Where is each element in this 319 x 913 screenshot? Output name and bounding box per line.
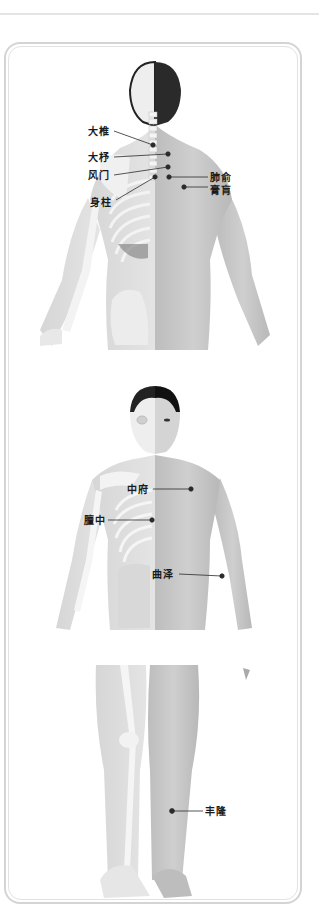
anatomy-illustration bbox=[0, 0, 319, 913]
acupoint-label-feishu: 肺俞 bbox=[210, 172, 231, 183]
acupoint-dot bbox=[220, 574, 224, 578]
acupoint-label-danzhong: 膻中 bbox=[84, 515, 105, 526]
acupoint-dot bbox=[153, 175, 157, 179]
leg-view-figure bbox=[96, 665, 250, 898]
front-view-figure bbox=[56, 386, 252, 630]
acupoint-label-quze: 曲泽 bbox=[152, 569, 173, 580]
acupoint-dot bbox=[151, 143, 155, 147]
acupoint-dot bbox=[182, 185, 186, 189]
acupoint-dot bbox=[189, 487, 193, 491]
acupoint-dot bbox=[150, 518, 154, 522]
acupoint-dot bbox=[166, 152, 170, 156]
acupoint-label-dazhui: 大椎 bbox=[88, 126, 109, 137]
acupoint-label-zhongfu: 中府 bbox=[127, 484, 148, 495]
acupoint-label-dazhu: 大杼 bbox=[88, 152, 109, 163]
acupoint-dot bbox=[170, 809, 175, 814]
acupoint-dot bbox=[167, 175, 171, 179]
acupoint-dot bbox=[166, 165, 170, 169]
acupoint-label-fengmen: 风门 bbox=[88, 170, 109, 181]
back-view-figure bbox=[40, 62, 270, 350]
acupoint-label-gaohuang: 膏肓 bbox=[210, 185, 231, 196]
acupoint-label-fenglong: 丰隆 bbox=[205, 806, 226, 817]
acupoint-label-shenzhu: 身柱 bbox=[90, 197, 111, 208]
